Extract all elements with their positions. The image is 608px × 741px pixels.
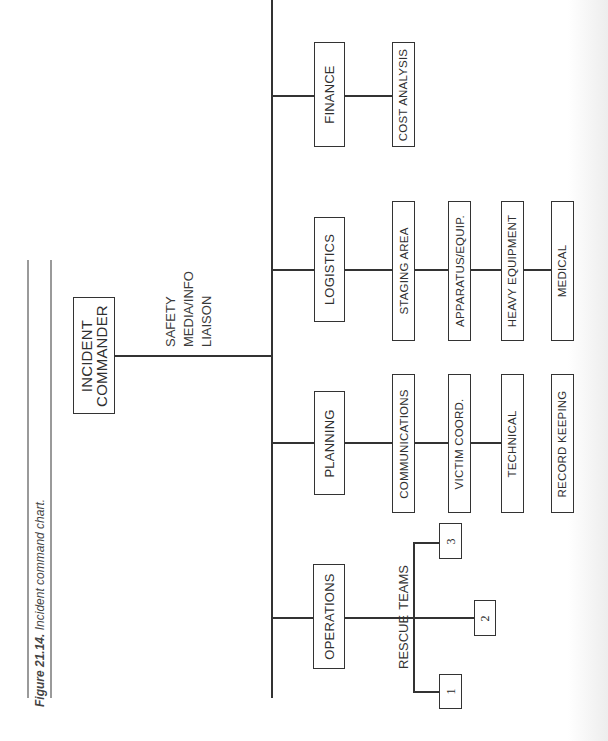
finance-connector — [272, 95, 314, 97]
medical-label: MEDICAL — [557, 245, 569, 298]
apparatus-equip-label: APPARATUS/EQUIP. — [454, 215, 466, 327]
rescue-team-2-box: 2 — [474, 600, 496, 636]
caption-rule-right — [50, 260, 52, 698]
planning-box: PLANNING — [314, 391, 345, 495]
planning-connector — [272, 442, 314, 444]
heavy-equipment-label: HEAVY EQUIPMENT — [507, 215, 519, 328]
teams-label: TEAMS — [396, 565, 411, 610]
page-edge-shadow — [568, 0, 608, 741]
logistics-connector — [272, 269, 314, 271]
cost-analysis-box: COST ANALYSIS — [392, 42, 415, 147]
staff-media-info: MEDIA/INFO — [180, 271, 198, 347]
command-staff-list: SAFETY MEDIA/INFO LIAISON — [162, 271, 216, 347]
finance-unit-connector — [345, 95, 392, 97]
staff-liaison: LIAISON — [198, 271, 216, 347]
operations-connector — [272, 617, 314, 619]
incident-commander-label: INCIDENT COMMANDER — [79, 305, 109, 407]
finance-label: FINANCE — [322, 65, 337, 123]
caption-rule-left — [27, 260, 29, 698]
staging-area-box: STAGING AREA — [392, 201, 415, 341]
commander-line-1: INCIDENT — [79, 305, 94, 407]
technical-label: TECHNICAL — [507, 410, 519, 477]
logistics-label: LOGISTICS — [322, 234, 337, 305]
rescue-team-3-box: 3 — [439, 523, 462, 559]
team-2-number: 2 — [478, 615, 493, 621]
commander-connector — [115, 355, 272, 357]
rescue-team-3-connector — [413, 542, 439, 544]
victim-coord-box: VICTIM COORD. — [448, 374, 471, 513]
technical-box: TECHNICAL — [501, 374, 524, 513]
planning-label: PLANNING — [322, 409, 337, 477]
finance-box: FINANCE — [314, 42, 345, 147]
main-spine — [271, 0, 273, 698]
planning-unit-connector — [345, 442, 502, 444]
staff-safety: SAFETY — [162, 271, 180, 347]
team-3-number: 3 — [443, 538, 458, 544]
victim-coord-label: VICTIM COORD. — [454, 398, 466, 489]
incident-commander-box: INCIDENT COMMANDER — [73, 297, 115, 414]
communications-label: COMMUNICATIONS — [398, 389, 410, 498]
rescue-team-1-box: 1 — [439, 674, 462, 709]
staging-area-label: STAGING AREA — [398, 227, 410, 314]
communications-box: COMMUNICATIONS — [392, 374, 415, 513]
record-keeping-box: RECORD KEEPING — [551, 374, 574, 513]
rescue-team-1-connector — [413, 691, 439, 693]
figure-label: Figure 21.14. — [33, 634, 47, 707]
figure-caption-text: Incident command chart. — [33, 499, 47, 630]
operations-label: OPERATIONS — [322, 573, 337, 659]
operations-box: OPERATIONS — [313, 564, 345, 669]
commander-line-2: COMMANDER — [94, 305, 109, 407]
medical-box: MEDICAL — [551, 201, 574, 341]
cost-analysis-label: COST ANALYSIS — [398, 48, 410, 140]
apparatus-equip-box: APPARATUS/EQUIP. — [448, 201, 471, 341]
rescue-teams-spine — [413, 542, 415, 692]
figure-caption: Figure 21.14. Incident command chart. — [33, 499, 47, 707]
team-1-number: 1 — [443, 689, 458, 695]
logistics-box: LOGISTICS — [314, 217, 345, 322]
rescue-label: RESCUE — [396, 615, 411, 669]
record-keeping-label: RECORD KEEPING — [557, 390, 569, 497]
rescue-teams-label: RESCUE TEAMS — [396, 565, 411, 669]
heavy-equipment-box: HEAVY EQUIPMENT — [501, 201, 524, 341]
